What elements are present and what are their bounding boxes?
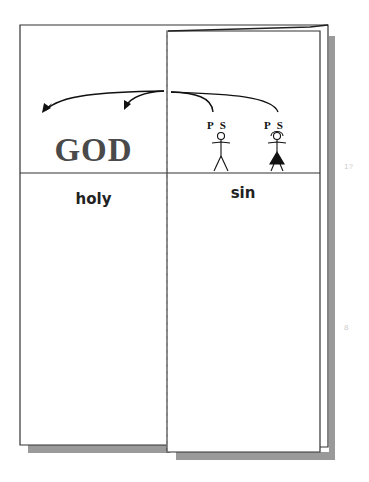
right-panel-shadow-side — [329, 36, 335, 460]
margin-mark: 8 — [344, 323, 348, 332]
right-panel-shadow-bottom — [176, 452, 331, 460]
folded-paper-diagram — [0, 0, 369, 482]
sin-label: sin — [168, 184, 318, 202]
male-ps-label: P S — [207, 119, 226, 131]
god-title: GOD — [20, 132, 167, 169]
left-panel-shadow — [28, 445, 170, 453]
margin-mark: 1? — [344, 162, 353, 171]
female-ps-label: P S — [264, 119, 283, 131]
holy-label: holy — [20, 190, 167, 208]
